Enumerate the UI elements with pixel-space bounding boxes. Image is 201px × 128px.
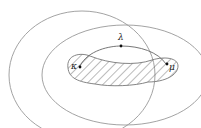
point-lambda xyxy=(120,45,123,48)
label-kappa: κ xyxy=(70,61,77,71)
label-lambda: λ xyxy=(117,32,124,42)
point-mu xyxy=(166,63,169,66)
diagram: κ λ μ xyxy=(0,0,201,128)
label-mu: μ xyxy=(169,62,175,72)
point-kappa xyxy=(79,66,82,69)
